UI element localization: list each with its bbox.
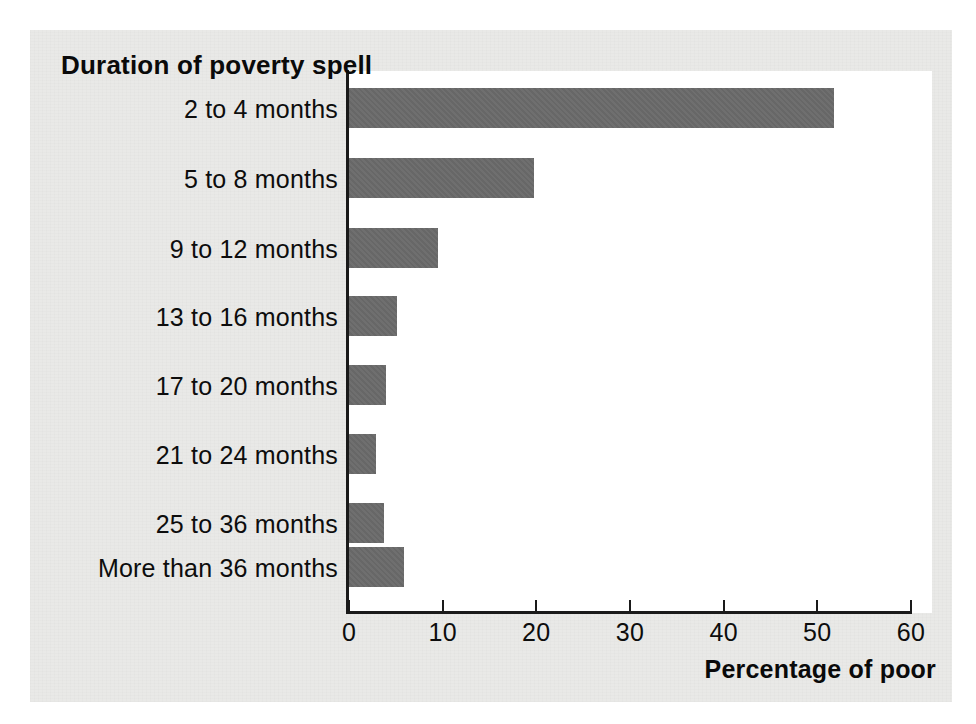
x-tick [629,600,631,612]
bar [349,547,404,587]
category-label: 13 to 16 months [18,303,338,332]
bar [349,434,376,474]
x-tick [348,600,350,612]
bar [349,158,534,198]
x-tick-label: 20 [506,618,566,647]
category-label: 5 to 8 months [18,165,338,194]
category-label: 17 to 20 months [18,372,338,401]
chart-figure: Duration of poverty spell Percentage of … [0,0,976,724]
x-tick-label: 10 [413,618,473,647]
x-tick [723,600,725,612]
chart-title: Duration of poverty spell [61,50,372,81]
bar [349,365,386,405]
category-label: 2 to 4 months [18,95,338,124]
x-axis-title: Percentage of poor [705,655,936,684]
x-tick [535,600,537,612]
x-tick [816,600,818,612]
category-label: More than 36 months [18,554,338,583]
bar [349,296,397,336]
bar [349,88,834,128]
x-tick-label: 50 [787,618,847,647]
x-tick-label: 0 [319,618,379,647]
category-label: 25 to 36 months [18,510,338,539]
x-tick-label: 40 [694,618,754,647]
bar [349,228,438,268]
category-label: 9 to 12 months [18,235,338,264]
plot-area [348,71,932,613]
category-label: 21 to 24 months [18,441,338,470]
x-tick [442,600,444,612]
x-tick [910,600,912,612]
bar [349,503,384,543]
x-tick-label: 60 [881,618,941,647]
x-tick-label: 30 [600,618,660,647]
